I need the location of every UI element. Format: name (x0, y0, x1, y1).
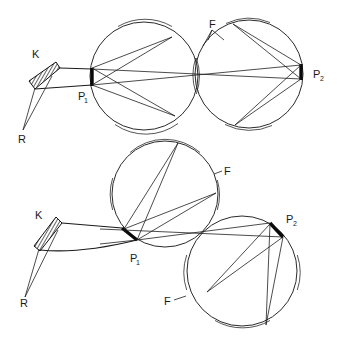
bottom-source-block (34, 217, 62, 251)
bottom-label-f-upper: F (224, 165, 231, 177)
bottom-label-k: K (35, 209, 43, 221)
bottom-panel: K R P 1 P 2 F F (20, 139, 300, 328)
bottom-label-p2-sub: 2 (293, 220, 297, 227)
top-label-r: R (18, 133, 26, 145)
top-label-p2-sub: 2 (320, 75, 324, 82)
bottom-label-f-lower: F (164, 295, 171, 307)
bottom-port-p2 (270, 223, 283, 237)
top-source-block (29, 62, 60, 89)
top-panel: K R P 1 P 2 F (18, 18, 324, 145)
top-label-p1-sub: 1 (84, 97, 88, 104)
top-label-k: K (32, 48, 40, 60)
top-label-f: F (209, 18, 216, 30)
bottom-label-p1-sub: 1 (136, 259, 140, 266)
diagram-canvas: K R P 1 P 2 F (0, 0, 337, 345)
bottom-label-r: R (20, 297, 28, 309)
